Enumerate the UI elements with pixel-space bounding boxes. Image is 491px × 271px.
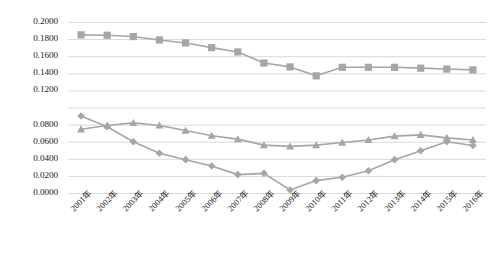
series-diamond-marker bbox=[156, 149, 164, 157]
series-square-marker bbox=[130, 33, 137, 40]
gridlines bbox=[68, 23, 486, 194]
series-diamond-marker bbox=[182, 156, 190, 164]
series-square-marker bbox=[260, 59, 267, 66]
series-square-marker bbox=[339, 64, 346, 71]
series-diamond-marker bbox=[417, 147, 425, 155]
chart-plot-area bbox=[0, 0, 491, 271]
series-diamond-line bbox=[81, 116, 473, 190]
series-square-marker bbox=[77, 31, 84, 38]
series-square-marker bbox=[365, 64, 372, 71]
series-diamond-marker bbox=[103, 123, 111, 131]
series-square bbox=[77, 31, 476, 79]
series-triangle-line bbox=[81, 123, 473, 147]
series-diamond-marker bbox=[339, 173, 347, 181]
series-diamond-marker bbox=[312, 177, 320, 185]
series-diamond-marker bbox=[208, 162, 216, 170]
series-diamond-marker bbox=[234, 171, 242, 179]
series-square-line bbox=[81, 35, 473, 76]
chart-container: 0.20000.18000.16000.14000.12000.08000.06… bbox=[0, 0, 491, 271]
series-diamond-marker bbox=[365, 167, 373, 175]
series-diamond-marker bbox=[130, 138, 138, 146]
series-square-marker bbox=[104, 32, 111, 39]
series-square-marker bbox=[391, 64, 398, 71]
series-square-marker bbox=[469, 66, 476, 73]
series-square-marker bbox=[208, 44, 215, 51]
series-diamond-marker bbox=[391, 156, 399, 164]
series-diamond-marker bbox=[77, 112, 85, 120]
series-square-marker bbox=[313, 72, 320, 79]
series-square-marker bbox=[156, 36, 163, 43]
series-square-marker bbox=[443, 65, 450, 72]
series-square-marker bbox=[234, 48, 241, 55]
series-square-marker bbox=[182, 39, 189, 46]
series-triangle bbox=[77, 119, 477, 150]
series-square-marker bbox=[417, 65, 424, 72]
series-square-marker bbox=[286, 63, 293, 70]
series-diamond bbox=[77, 112, 476, 194]
